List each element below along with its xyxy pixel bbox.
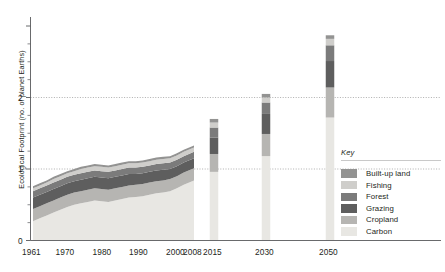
y-tick-label-2: 2: [9, 93, 23, 103]
bar-2050-fishing: [326, 39, 335, 45]
stacked-areas: [33, 145, 194, 240]
legend-swatch-built-up-land: [341, 169, 357, 178]
bar-2030-cropland: [262, 134, 271, 156]
legend-items: Built-up landFishingForestGrazingCroplan…: [341, 168, 441, 237]
bar-2050-built-up-land: [326, 35, 335, 39]
bar-2030-fishing: [262, 98, 271, 103]
bar-2030-carbon: [262, 156, 271, 240]
legend: Key Built-up landFishingForestGrazingCro…: [341, 148, 441, 237]
projection-bars: [210, 35, 335, 240]
legend-swatch-grazing: [341, 204, 357, 213]
legend-label: Fishing: [366, 181, 392, 190]
x-tick-label-2050: 2050: [319, 247, 338, 257]
legend-item-carbon: Carbon: [341, 226, 441, 237]
legend-label: Cropland: [366, 215, 398, 224]
legend-swatch-fishing: [341, 181, 357, 190]
bar-2050-forest: [326, 45, 335, 61]
y-tick-label-0: 0: [9, 236, 23, 246]
bar-2050-grazing: [326, 61, 335, 87]
legend-label: Carbon: [366, 227, 392, 236]
legend-label: Built-up land: [366, 169, 410, 178]
bar-2030-forest: [262, 103, 271, 114]
bar-2015-grazing: [210, 138, 219, 154]
legend-item-fishing: Fishing: [341, 180, 441, 191]
legend-swatch-forest: [341, 193, 357, 202]
x-tick-label-1970: 1970: [56, 247, 75, 257]
legend-item-grazing: Grazing: [341, 203, 441, 214]
legend-swatch-cropland: [341, 216, 357, 225]
bar-2050-cropland: [326, 87, 335, 117]
legend-label: Grazing: [366, 204, 394, 213]
x-tick-label-1990: 1990: [129, 247, 148, 257]
x-tick-label-1980: 1980: [93, 247, 112, 257]
x-tick-label-2000: 2000: [166, 247, 185, 257]
bar-2015-forest: [210, 128, 219, 138]
bar-2015-fishing: [210, 123, 219, 128]
bar-2030-grazing: [262, 114, 271, 134]
bar-2030-built-up-land: [262, 94, 271, 98]
bar-2015-carbon: [210, 172, 219, 241]
bar-2015-built-up-land: [210, 119, 219, 123]
x-tick-label-2015: 2015: [203, 247, 222, 257]
legend-swatch-carbon: [341, 227, 357, 236]
legend-title: Key: [341, 148, 441, 160]
x-tick-label-2008: 2008: [183, 247, 202, 257]
y-tick-label-1: 1: [9, 164, 23, 174]
legend-item-forest: Forest: [341, 191, 441, 202]
bar-2050-carbon: [326, 118, 335, 241]
chart-figure: Ecological Footprint (no. of planet Eart…: [0, 0, 445, 272]
x-tick-label-2030: 2030: [255, 247, 274, 257]
bar-2015-cropland: [210, 154, 219, 172]
legend-label: Forest: [366, 192, 389, 201]
legend-item-built-up-land: Built-up land: [341, 168, 441, 179]
x-tick-label-1961: 1961: [22, 247, 41, 257]
y-axis-title: Ecological Footprint (no. of planet Eart…: [17, 20, 26, 220]
legend-item-cropland: Cropland: [341, 214, 441, 225]
legend-divider: [341, 160, 441, 161]
